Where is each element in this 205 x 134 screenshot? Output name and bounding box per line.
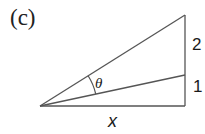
angle-theta-label: θ [95, 76, 102, 91]
base-length-label: x [108, 112, 117, 130]
triangle-figure: (c) θ 2 1 x [0, 0, 205, 134]
upper-segment-label: 2 [192, 36, 201, 53]
inner-line [40, 75, 185, 106]
lower-segment-label: 1 [193, 78, 202, 95]
panel-label: (c) [10, 6, 36, 29]
upper-hypotenuse [40, 15, 185, 106]
